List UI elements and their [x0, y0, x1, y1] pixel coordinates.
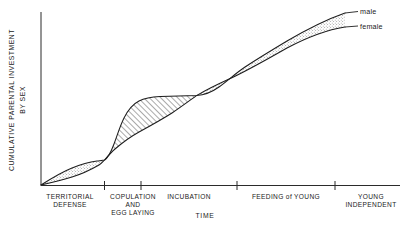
- x-category-feeding-line1: FEEDING of YOUNG: [252, 193, 320, 200]
- chart-legend: male female: [345, 7, 383, 31]
- legend-label-male: male: [360, 7, 376, 16]
- territorial-defense-gap: [41, 160, 105, 185]
- x-axis-category-labels: TERRITORIAL DEFENSE COPULATION AND EGG L…: [46, 193, 396, 216]
- x-category-copulation-line1: COPULATION: [110, 193, 156, 200]
- x-category-copulation-line3: EGG LAYING: [111, 209, 155, 216]
- x-category-young-independent: YOUNG INDEPENDENT: [345, 193, 396, 208]
- y-axis-title-line1: CUMULATIVE PARENTAL INVESTMENT: [8, 29, 15, 171]
- male-leader-line: [345, 12, 358, 14]
- x-category-young-independent-line2: INDEPENDENT: [345, 201, 396, 208]
- female-investment-curve: [41, 27, 345, 185]
- female-leader-line: [345, 26, 358, 27]
- feeding-of-young-gap: [197, 13, 346, 96]
- figure-container: CUMULATIVE PARENTAL INVESTMENT BY SEX TE…: [0, 0, 406, 234]
- investment-gap-regions: [41, 13, 345, 185]
- x-category-incubation-line1: INCUBATION: [167, 193, 211, 200]
- legend-label-female: female: [360, 22, 383, 31]
- x-category-territorial-defense-line1: TERRITORIAL: [46, 193, 93, 200]
- x-category-young-independent-line1: YOUNG: [358, 193, 384, 200]
- y-axis-title-line2: BY SEX: [19, 86, 26, 114]
- x-category-territorial-defense-line2: DEFENSE: [53, 201, 87, 208]
- x-category-copulation-egg-laying: COPULATION AND EGG LAYING: [110, 193, 156, 216]
- y-axis-title: CUMULATIVE PARENTAL INVESTMENT BY SEX: [8, 29, 26, 171]
- x-category-territorial-defense: TERRITORIAL DEFENSE: [46, 193, 93, 208]
- x-category-incubation: INCUBATION: [167, 193, 211, 200]
- parental-investment-chart: CUMULATIVE PARENTAL INVESTMENT BY SEX TE…: [0, 0, 406, 234]
- x-category-copulation-line2: AND: [126, 201, 141, 208]
- x-axis-title: TIME: [195, 212, 214, 219]
- x-category-feeding-of-young: FEEDING of YOUNG: [252, 193, 320, 200]
